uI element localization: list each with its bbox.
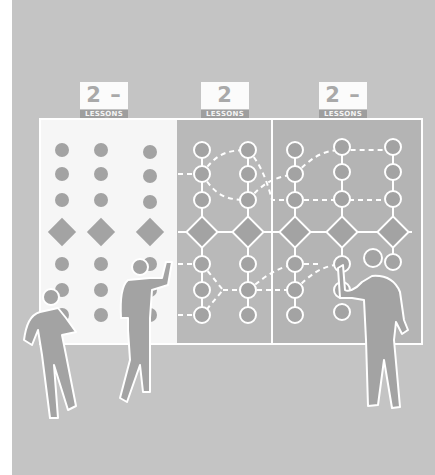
board-diagram [12,0,435,475]
illustration-scene: 2 – 3 LESSONS 2 LESSONS 2 – 3 LESSONS [12,0,435,475]
